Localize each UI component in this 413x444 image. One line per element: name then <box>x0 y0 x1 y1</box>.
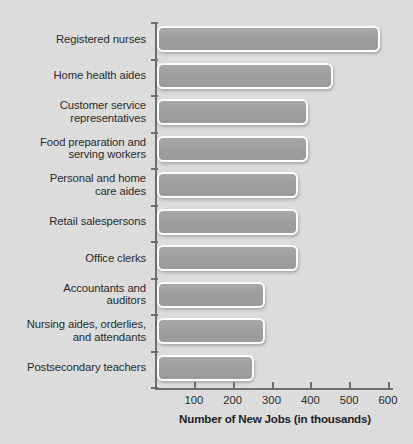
x-axis-tick <box>233 382 235 389</box>
plot-area <box>155 22 395 388</box>
x-axis-tick <box>272 382 274 389</box>
bar[interactable] <box>157 318 265 344</box>
bar[interactable] <box>157 282 265 308</box>
category-label-line: Registered nurses <box>0 33 146 46</box>
category-label-line: auditors <box>0 294 146 307</box>
x-axis-line <box>155 388 393 390</box>
y-axis-tick <box>151 132 158 134</box>
category-axis-labels: Registered nursesHome health aidesCustom… <box>0 22 150 388</box>
bar[interactable] <box>157 99 308 125</box>
bar[interactable] <box>157 355 254 381</box>
y-axis-tick <box>151 95 158 97</box>
x-axis-tick <box>349 382 351 389</box>
category-label: Registered nurses <box>0 33 146 46</box>
category-label: Postsecondary teachers <box>0 361 146 374</box>
category-label-line: Retail salespersons <box>0 215 146 228</box>
bar[interactable] <box>157 136 308 162</box>
x-axis-tick-label: 200 <box>213 394 253 406</box>
x-axis-tick-label: 300 <box>252 394 292 406</box>
y-axis-tick <box>151 314 158 316</box>
y-axis-tick <box>151 22 158 24</box>
category-label-line: Personal and home <box>0 172 146 185</box>
x-axis-tick-label: 600 <box>368 394 408 406</box>
y-axis-tick <box>151 205 158 207</box>
category-label: Office clerks <box>0 252 146 265</box>
category-label: Home health aides <box>0 69 146 82</box>
category-label-line: and attendants <box>0 331 146 344</box>
x-axis-tick-label: 400 <box>290 394 330 406</box>
category-label: Personal and homecare aides <box>0 172 146 197</box>
category-label: Accountants andauditors <box>0 282 146 307</box>
x-axis-tick-label: 100 <box>174 394 214 406</box>
category-label: Customer servicerepresentatives <box>0 99 146 124</box>
bar[interactable] <box>157 63 333 89</box>
category-label-line: serving workers <box>0 148 146 161</box>
category-label-line: care aides <box>0 185 146 198</box>
category-label-line: Nursing aides, orderlies, <box>0 318 146 331</box>
x-axis-tick <box>310 382 312 389</box>
x-axis-tick-label: 500 <box>329 394 369 406</box>
x-axis-title: Number of New Jobs (in thousands) <box>155 412 395 425</box>
bar[interactable] <box>157 172 298 198</box>
y-axis-tick <box>151 59 158 61</box>
category-label: Nursing aides, orderlies,and attendants <box>0 318 146 343</box>
y-axis-tick <box>151 351 158 353</box>
x-axis-tick <box>194 382 196 389</box>
category-label-line: Office clerks <box>0 252 146 265</box>
x-axis: 100200300400500600 Number of New Jobs (i… <box>155 388 400 444</box>
y-axis-tick <box>151 168 158 170</box>
bar[interactable] <box>157 209 298 235</box>
category-label-line: Home health aides <box>0 69 146 82</box>
bar[interactable] <box>157 26 380 52</box>
category-label-line: Customer service <box>0 99 146 112</box>
category-label-line: Accountants and <box>0 282 146 295</box>
category-label: Food preparation andserving workers <box>0 136 146 161</box>
category-label-line: Postsecondary teachers <box>0 361 146 374</box>
category-label-line: representatives <box>0 112 146 125</box>
y-axis-tick <box>151 278 158 280</box>
x-axis-tick <box>388 382 390 389</box>
y-axis-tick <box>151 241 158 243</box>
category-label: Retail salespersons <box>0 215 146 228</box>
bar-chart: Registered nursesHome health aidesCustom… <box>0 0 413 444</box>
bar[interactable] <box>157 245 298 271</box>
category-label-line: Food preparation and <box>0 136 146 149</box>
